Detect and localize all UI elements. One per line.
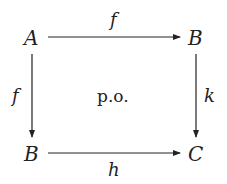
node-bottom-right: C bbox=[188, 144, 203, 164]
node-bottom-left: B bbox=[24, 144, 39, 164]
pushout-diagram: A B B C f f k h p.o. bbox=[0, 0, 227, 184]
node-top-right: B bbox=[188, 28, 203, 48]
arrow-label-right: k bbox=[204, 87, 215, 105]
arrow-label-bottom: h bbox=[108, 161, 120, 179]
node-top-left: A bbox=[24, 28, 38, 48]
arrow-label-left: f bbox=[12, 87, 19, 105]
arrow-label-top: f bbox=[110, 11, 117, 29]
pushout-label: p.o. bbox=[97, 88, 129, 105]
